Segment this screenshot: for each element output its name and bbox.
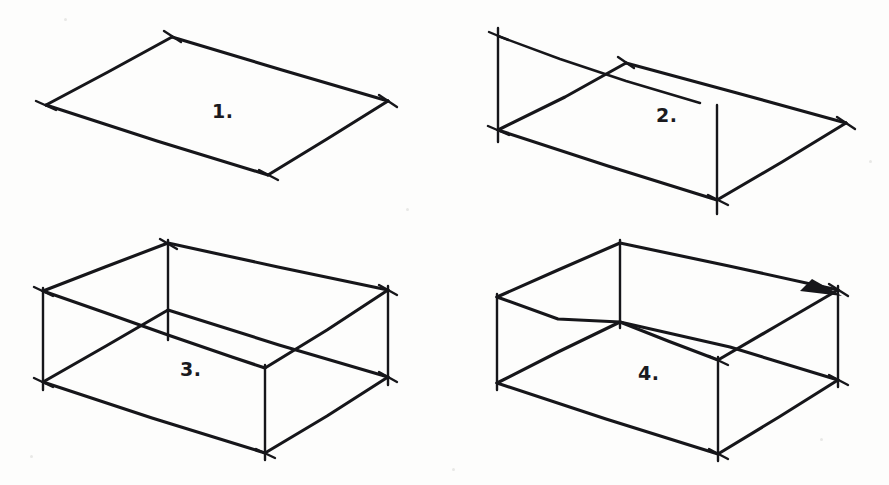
- scan-speck: [30, 455, 33, 458]
- figure-2-label: 2.: [656, 104, 677, 126]
- scan-speck: [869, 160, 872, 163]
- figure-3-label: 3.: [180, 358, 201, 380]
- scan-speck: [452, 468, 455, 471]
- drawing-canvas: [0, 0, 889, 485]
- scan-speck: [820, 438, 823, 441]
- scan-speck: [64, 18, 67, 21]
- drawing-sheet: 1. 2. 3. 4.: [0, 0, 889, 485]
- figure-1-label: 1.: [212, 100, 233, 122]
- figure-3-drawing: [34, 239, 397, 460]
- figure-4-label: 4.: [638, 362, 659, 384]
- scan-speck: [406, 208, 409, 211]
- figure-4-drawing: [497, 240, 848, 461]
